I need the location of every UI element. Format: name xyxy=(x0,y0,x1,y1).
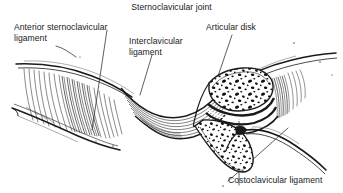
sternoclavicular-joint-cross-section xyxy=(194,68,279,172)
anterior-sternoclavicular-ligament-fibers xyxy=(24,69,122,138)
posterior-capsule-fibers xyxy=(272,70,305,118)
clavicle-cut-surface-outline xyxy=(209,68,273,111)
rib-lower-edge xyxy=(18,116,78,142)
ligament-fiber-shading xyxy=(62,76,99,136)
illustration-page: Sternoclavicular joint Anterior sternocl… xyxy=(0,0,343,193)
sternoclavicular-joint-drawing xyxy=(0,0,343,193)
leader-anterior-sternoclavicular-a xyxy=(56,46,76,57)
left-clavicle xyxy=(12,61,134,150)
first-rib-upper-edge xyxy=(14,104,118,146)
leader-interclavicular xyxy=(140,55,152,95)
